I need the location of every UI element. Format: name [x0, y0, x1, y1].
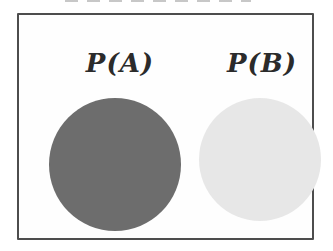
set-b-circle	[199, 98, 321, 221]
diagram-frame: P(A) P(B)	[17, 13, 314, 240]
set-b-label: P(B)	[227, 48, 297, 78]
diagram-canvas: P(A) P(B)	[0, 0, 333, 251]
set-a-circle	[49, 98, 181, 231]
cropped-line-artifact	[65, 0, 251, 2]
set-a-label: P(A)	[86, 48, 154, 78]
